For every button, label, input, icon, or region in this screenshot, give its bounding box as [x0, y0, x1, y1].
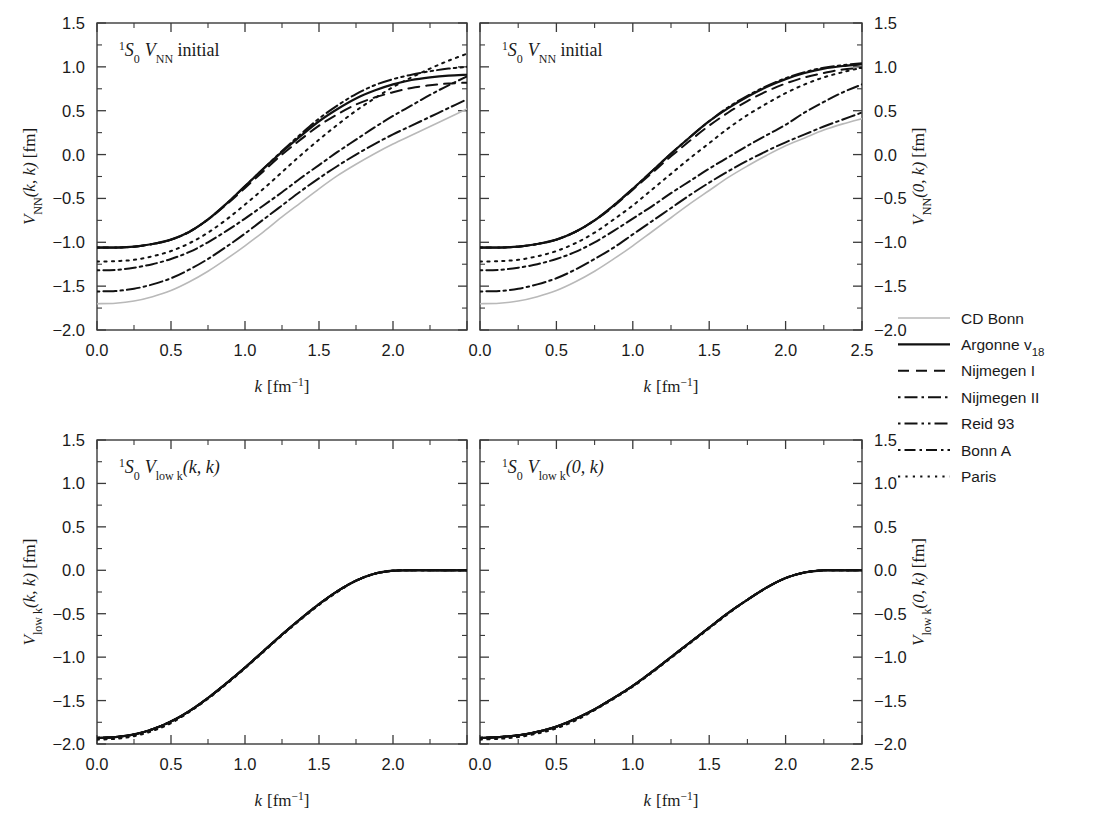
panel-frame — [97, 440, 467, 744]
x-axis-label: k[fm−1] — [254, 376, 309, 396]
panel-bottom-left: 1.51.00.50.0−0.5−1.0−1.5−2.00.00.51.01.5… — [20, 431, 467, 810]
y-tick-label: 1.5 — [62, 14, 85, 32]
figure-root: 1.51.00.50.0−0.5−1.0−1.5−2.00.00.51.01.5… — [0, 0, 1093, 822]
legend-item-nijmegen-ii[interactable]: Nijmegen II — [898, 389, 1039, 406]
y-tick-label: −0.5 — [874, 189, 907, 207]
legend: CD BonnArgonne v18Nijmegen INijmegen IIR… — [898, 310, 1044, 485]
x-tick-label: 1.5 — [698, 341, 721, 359]
legend-item-reid-93[interactable]: Reid 93 — [898, 415, 1014, 432]
panel-frame — [480, 440, 862, 744]
x-tick-label: 2.0 — [774, 341, 797, 359]
y-tick-label: 1.0 — [874, 474, 897, 492]
x-tick-label: 1.0 — [234, 341, 257, 359]
x-tick-label: 1.5 — [308, 341, 331, 359]
x-tick-label: 1.5 — [698, 755, 721, 773]
x-tick-label: 0.5 — [160, 755, 183, 773]
x-tick-label: 2.0 — [382, 341, 405, 359]
y-tick-label: 1.0 — [62, 58, 85, 76]
legend-item-cd-bonn[interactable]: CD Bonn — [898, 310, 1024, 327]
x-tick-label: 0.5 — [160, 341, 183, 359]
y-tick-label: 0.5 — [874, 518, 897, 536]
y-tick-label: 0.0 — [62, 146, 85, 164]
y-tick-label: −1.5 — [52, 277, 85, 295]
y-axis-label: VNN(k, k) [fm] — [20, 128, 45, 225]
x-tick-label: 0.0 — [469, 341, 492, 359]
x-tick-label: 0.5 — [545, 755, 568, 773]
y-tick-label: 1.5 — [874, 14, 897, 32]
x-tick-label: 0.0 — [469, 755, 492, 773]
x-axis-label: k[fm−1] — [643, 376, 698, 396]
y-tick-label: −2.0 — [52, 735, 85, 753]
y-tick-label: 1.0 — [874, 58, 897, 76]
y-tick-label: 0.5 — [62, 102, 85, 120]
y-tick-label: −0.5 — [874, 605, 907, 623]
y-tick-label: −1.5 — [874, 277, 907, 295]
legend-label: Bonn A — [961, 442, 1012, 459]
legend-label: CD Bonn — [961, 310, 1024, 327]
legend-label: Nijmegen II — [961, 389, 1039, 406]
y-tick-label: −0.5 — [52, 605, 85, 623]
y-tick-label: −1.0 — [52, 233, 85, 251]
y-tick-label: 0.0 — [874, 561, 897, 579]
y-tick-label: 0.5 — [874, 102, 897, 120]
panel-bottom-right: 1.51.00.50.0−0.5−1.0−1.5−2.00.00.51.01.5… — [469, 431, 934, 810]
y-tick-label: 0.0 — [874, 146, 897, 164]
x-tick-label: 1.0 — [621, 341, 644, 359]
x-tick-label: 2.5 — [851, 755, 874, 773]
y-tick-label: −2.0 — [874, 735, 907, 753]
y-tick-label: 1.5 — [62, 431, 85, 449]
x-tick-label: 0.5 — [545, 341, 568, 359]
y-tick-label: 0.5 — [62, 518, 85, 536]
y-tick-label: −2.0 — [52, 321, 85, 339]
x-tick-label: 2.5 — [851, 341, 874, 359]
y-tick-label: −1.0 — [52, 648, 85, 666]
y-tick-label: 1.5 — [874, 431, 897, 449]
y-tick-label: −2.0 — [874, 321, 907, 339]
legend-item-nijmegen-i[interactable]: Nijmegen I — [898, 362, 1035, 379]
x-tick-label: 0.0 — [86, 755, 109, 773]
y-tick-label: 1.0 — [62, 474, 85, 492]
panel-top-right: 1.51.00.50.0−0.5−1.0−1.5−2.00.00.51.01.5… — [469, 14, 934, 396]
y-tick-label: −1.5 — [874, 692, 907, 710]
legend-label: Nijmegen I — [961, 362, 1035, 379]
x-axis-label: k[fm−1] — [643, 790, 698, 810]
x-tick-label: 1.0 — [621, 755, 644, 773]
y-tick-label: −1.5 — [52, 692, 85, 710]
legend-label: Paris — [961, 468, 997, 485]
x-tick-label: 2.0 — [774, 755, 797, 773]
x-tick-label: 1.5 — [308, 755, 331, 773]
y-axis-label: Vlow k(k, k) [fm] — [20, 539, 45, 646]
x-tick-label: 1.0 — [234, 755, 257, 773]
panel-top-left: 1.51.00.50.0−0.5−1.0−1.5−2.00.00.51.01.5… — [20, 14, 467, 396]
x-tick-label: 2.0 — [382, 755, 405, 773]
x-tick-label: 0.0 — [86, 341, 109, 359]
legend-label: Reid 93 — [961, 415, 1014, 432]
y-tick-label: 0.0 — [62, 561, 85, 579]
y-axis-label: Vlow k(0, k) [fm] — [909, 538, 934, 646]
legend-label: Argonne v18 — [961, 336, 1044, 358]
y-tick-label: −1.0 — [874, 233, 907, 251]
y-axis-label: VNN(0, k) [fm] — [909, 127, 934, 225]
figure-canvas: 1.51.00.50.0−0.5−1.0−1.5−2.00.00.51.01.5… — [0, 0, 1093, 822]
legend-item-bonn-a[interactable]: Bonn A — [898, 442, 1012, 459]
legend-item-paris[interactable]: Paris — [898, 468, 997, 485]
y-tick-label: −0.5 — [52, 189, 85, 207]
x-axis-label: k[fm−1] — [254, 790, 309, 810]
legend-item-argonne-v18[interactable]: Argonne v18 — [898, 336, 1044, 358]
y-tick-label: −1.0 — [874, 648, 907, 666]
